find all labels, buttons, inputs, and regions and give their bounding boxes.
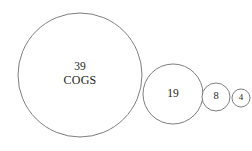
bubble-value-label-4: 4 — [239, 92, 244, 102]
proportional-circle-chart: 39 COGS 19 8 4 — [0, 0, 252, 151]
bubble-value-label-8: 8 — [213, 90, 218, 101]
bubble-value-label-cogs: 39 — [74, 60, 86, 72]
bubble-name-label-cogs: COGS — [64, 73, 97, 87]
bubble-chart-canvas: 39 COGS 19 8 4 — [0, 0, 252, 151]
bubble-value-label-19: 19 — [167, 87, 179, 99]
